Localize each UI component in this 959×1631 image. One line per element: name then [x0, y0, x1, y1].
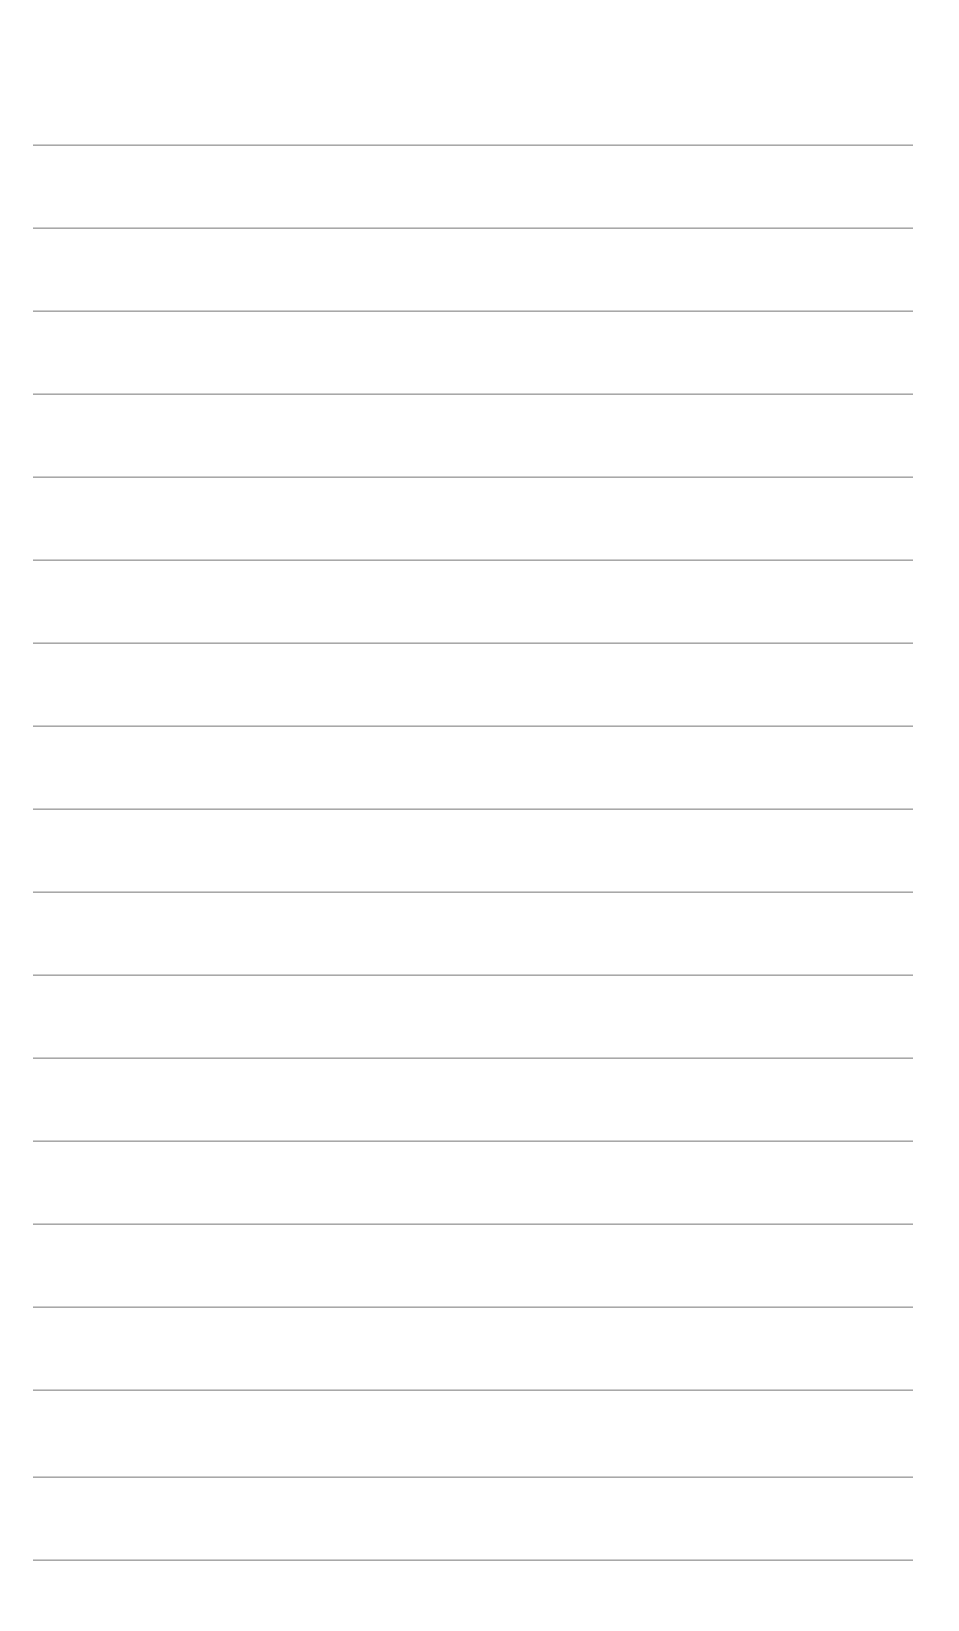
ruled-line	[33, 891, 913, 893]
ruled-line	[33, 1223, 913, 1225]
ruled-line	[33, 1476, 913, 1478]
ruled-line	[33, 227, 913, 229]
ruled-line	[33, 1559, 913, 1561]
ruled-line	[33, 808, 913, 810]
ruled-line	[33, 974, 913, 976]
ruled-line	[33, 144, 913, 146]
ruled-line	[33, 1057, 913, 1059]
ruled-line	[33, 725, 913, 727]
ruled-line	[33, 559, 913, 561]
ruled-line	[33, 1306, 913, 1308]
ruled-line	[33, 1140, 913, 1142]
ruled-line	[33, 476, 913, 478]
ruled-line	[33, 393, 913, 395]
ruled-line	[33, 310, 913, 312]
lined-paper-page	[0, 0, 959, 1631]
ruled-line	[33, 642, 913, 644]
ruled-line	[33, 1389, 913, 1391]
